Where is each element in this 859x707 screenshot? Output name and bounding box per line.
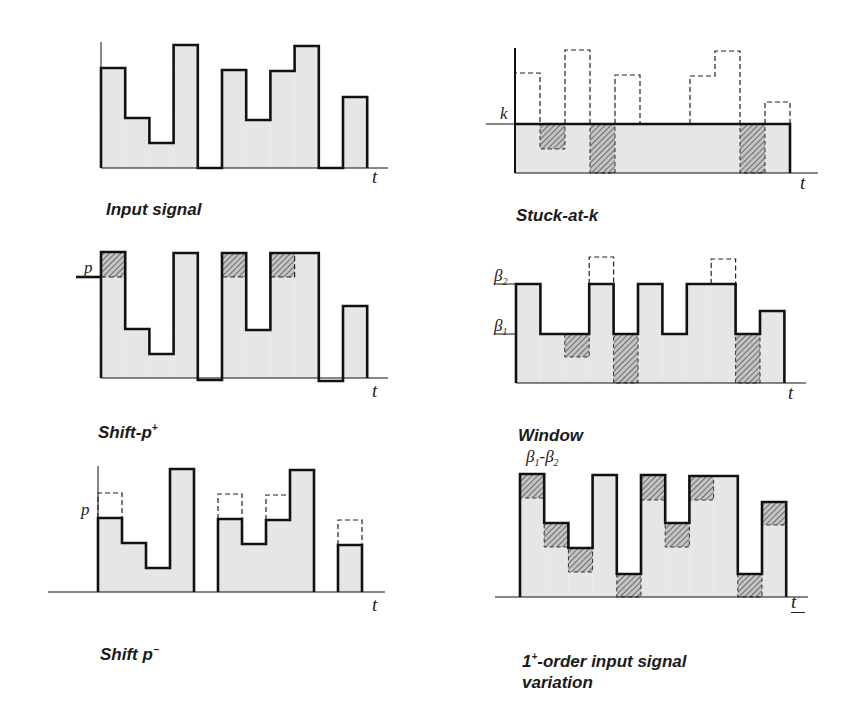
signal-bar [516, 284, 540, 383]
beta2-level-label: β2 [494, 266, 507, 287]
caption-shift-p-plus: Shift-p+ [98, 396, 158, 443]
signal-bar [246, 120, 270, 168]
original-signal-dashed [711, 259, 735, 284]
signal-bar [589, 284, 613, 383]
original-signal-dashed [589, 257, 613, 284]
t-axis-label: t [372, 380, 377, 402]
t-axis-label: t [372, 166, 377, 188]
original-signal-dashed [515, 73, 540, 124]
caption-window-beta: Window β1-β2 [518, 404, 583, 473]
caption-stuck-at-k: Stuck-at-k [516, 184, 598, 226]
original-signal-dashed [565, 50, 590, 124]
signal-bar [593, 475, 617, 597]
signal-bar [270, 71, 294, 168]
panel-first-order-variation [495, 474, 808, 597]
signal-bar [638, 284, 662, 383]
fault-region-hatched [565, 334, 589, 357]
signal-bar [343, 97, 367, 168]
signal-bar [149, 143, 173, 168]
signal-bar [242, 544, 266, 592]
caption-text: Shift-p [98, 423, 152, 442]
signal-bar [170, 469, 194, 592]
panel-input-signal [101, 42, 388, 168]
signal-bar [149, 354, 173, 378]
original-signal-dashed [98, 493, 122, 518]
fault-region-hatched [641, 475, 665, 500]
panel-window-beta [494, 257, 806, 383]
signal-bar [662, 334, 686, 383]
caption-text: Shift p [100, 645, 153, 664]
signal-bar [174, 253, 198, 378]
signal-bar [98, 518, 122, 592]
t-axis-label: t [788, 382, 793, 404]
signal-bar [125, 329, 149, 378]
signal-bar [266, 520, 290, 592]
fault-region-hatched [590, 124, 615, 173]
fault-region-hatched [689, 476, 713, 500]
fault-region-hatched [665, 523, 689, 547]
caption-superscript: − [153, 644, 159, 655]
original-signal-dashed [690, 51, 740, 124]
caption-text: Stuck-at-k [516, 206, 598, 225]
caption-text: Window [518, 426, 583, 445]
signal-bar [146, 568, 170, 592]
signal-bar [711, 284, 735, 383]
fault-region-hatched [540, 124, 565, 149]
signal-bar [295, 253, 319, 378]
fault-region-hatched [740, 124, 765, 173]
signal-bar [101, 68, 125, 168]
signal-bar [290, 470, 314, 592]
caption-first-order-variation: 1+-order input signalvariation [522, 625, 687, 693]
fault-region-hatched [762, 502, 786, 525]
panel-shift-p-minus [48, 466, 385, 592]
t-axis-label: t [791, 592, 805, 613]
signal-bar [295, 46, 319, 168]
signal-bar [760, 311, 784, 383]
fault-region-hatched [568, 548, 592, 572]
fault-region-hatched [101, 252, 125, 277]
signal-bar [687, 284, 711, 383]
signal-bar [343, 306, 367, 378]
caption-input-signal: Input signal [106, 178, 201, 220]
signal-bar [125, 118, 149, 168]
signal-bar [246, 330, 270, 378]
original-signal-dashed [218, 494, 242, 519]
signal-bar [122, 543, 146, 592]
fault-region-hatched [544, 523, 568, 547]
fault-region-hatched [617, 574, 641, 597]
p-level-label: p [84, 258, 93, 278]
original-signal-dashed [765, 102, 790, 124]
caption-superscript: + [152, 422, 158, 433]
fault-region-hatched [222, 253, 246, 277]
fault-region-hatched [738, 574, 762, 597]
t-axis-label: t [800, 172, 805, 194]
fault-region-hatched [270, 253, 294, 277]
panel-shift-p-plus [76, 252, 388, 381]
signal-bar [338, 545, 362, 592]
fault-region-hatched [736, 334, 760, 383]
fault-model-diagram [0, 0, 859, 707]
caption-text: Input signal [106, 200, 201, 219]
original-signal-dashed [266, 495, 290, 520]
p-level-label: p [81, 500, 90, 520]
signal-bar [540, 334, 564, 383]
original-signal-dashed [615, 75, 640, 124]
signal-bar [714, 476, 738, 597]
fault-region-hatched [614, 334, 638, 383]
signal-bar [218, 519, 242, 592]
k-level-label: k [500, 104, 508, 124]
t-axis-label: t [372, 594, 377, 616]
caption-shift-p-minus: Shift p− [100, 618, 159, 665]
original-signal-dashed [338, 520, 362, 545]
beta1-level-label: β1 [494, 316, 507, 337]
signal-bar [222, 70, 246, 168]
fault-region-hatched [520, 474, 544, 498]
signal-bar [174, 45, 198, 168]
panel-stuck-at-k [486, 48, 818, 173]
